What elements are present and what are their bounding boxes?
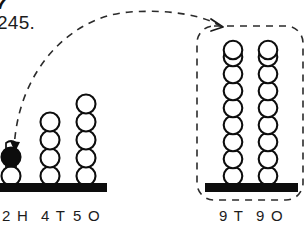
target-base-bar: [205, 183, 298, 192]
source-base-bar: [0, 183, 107, 192]
diagram-canvas: 7 245.: [0, 0, 307, 230]
bead-white[interactable]: [2, 167, 21, 186]
label-target-ones: 9 O: [256, 208, 284, 223]
source-abacus: [0, 95, 107, 193]
label-hundreds: 2 H: [2, 208, 29, 223]
bead-white[interactable]: [41, 167, 60, 186]
bead-white[interactable]: [77, 167, 96, 186]
bead-white[interactable]: [41, 113, 60, 132]
bead-white[interactable]: [77, 131, 96, 150]
bead-white[interactable]: [224, 65, 243, 84]
bead-white[interactable]: [77, 113, 96, 132]
column-hundreds[interactable]: [2, 148, 21, 186]
bead-white[interactable]: [224, 150, 243, 169]
bead-white[interactable]: [41, 131, 60, 150]
highlight-box: [197, 26, 303, 200]
bead-white[interactable]: [224, 167, 243, 186]
bead-white[interactable]: [259, 116, 278, 135]
bead-white[interactable]: [77, 95, 96, 114]
column-ones[interactable]: [259, 41, 278, 186]
bead-white[interactable]: [259, 65, 278, 84]
bead-white[interactable]: [224, 82, 243, 101]
bead-white[interactable]: [259, 133, 278, 152]
bead-white[interactable]: [224, 116, 243, 135]
label-tens: 4 T: [41, 208, 66, 223]
label-ones: 5 O: [73, 208, 101, 223]
column-ones[interactable]: [77, 95, 96, 186]
bead-white[interactable]: [224, 41, 243, 60]
bead-white[interactable]: [41, 149, 60, 168]
bead-white[interactable]: [259, 150, 278, 169]
bead-white[interactable]: [259, 41, 278, 60]
bead-white[interactable]: [224, 99, 243, 118]
bead-white[interactable]: [259, 82, 278, 101]
column-tens[interactable]: [224, 41, 243, 186]
bead-white[interactable]: [77, 149, 96, 168]
bead-white[interactable]: [259, 167, 278, 186]
label-target-tens: 9 T: [219, 208, 244, 223]
target-abacus: [205, 41, 298, 192]
bead-white[interactable]: [259, 99, 278, 118]
bead-highlighted[interactable]: [2, 148, 21, 167]
abacus-illustration: [0, 0, 307, 230]
transfer-arrow: [10, 11, 223, 152]
column-tens[interactable]: [41, 113, 60, 186]
bead-white[interactable]: [224, 133, 243, 152]
